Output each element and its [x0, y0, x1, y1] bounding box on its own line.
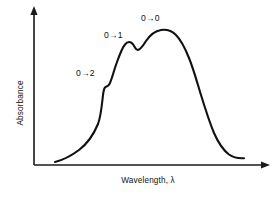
peak-label-0-0: 0→0: [141, 13, 160, 23]
peak-label-0-2: 0→2: [76, 68, 95, 78]
up-arrow-icon: [30, 6, 37, 15]
absorbance-curve: [55, 30, 244, 162]
y-axis-title-group: Absorbance: [16, 80, 25, 125]
y-axis-title: Absorbance: [16, 80, 25, 125]
x-axis-title: Wavelength, λ: [121, 176, 175, 185]
spectrum-figure: 0→2 0→1 0→0 Absorbance Wavelength, λ: [0, 0, 280, 199]
peak-label-0-1: 0→1: [104, 30, 123, 40]
right-arrow-icon: [261, 161, 270, 168]
spectrum-plot-canvas: 0→2 0→1 0→0 Absorbance Wavelength, λ: [0, 0, 280, 199]
